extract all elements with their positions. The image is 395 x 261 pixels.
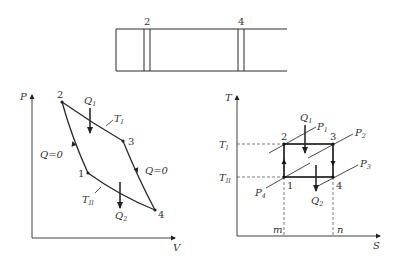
ts-label-1: 1 <box>287 180 293 191</box>
ts-q2-label: Q2 <box>311 195 323 208</box>
pv-point-1 <box>86 171 89 174</box>
pv-diagram: P V 2 3 1 4 Q1 TI Q=0 Q=0 TII Q2 <box>19 89 182 253</box>
dashed-guides <box>237 144 333 236</box>
pv-t-hot-label: TI <box>114 113 124 126</box>
ts-p2-label: P2 <box>354 127 366 140</box>
pv-point-3 <box>121 139 124 142</box>
p-axis-label: P <box>19 91 27 102</box>
pv-q1-label: Q1 <box>84 95 96 108</box>
pv-point-4 <box>153 208 156 211</box>
v-axis-label: V <box>173 242 182 253</box>
ts-arrow-up-icon <box>282 159 287 164</box>
piston-label-2: 2 <box>144 16 150 27</box>
pv-adiabat-right-label: Q=0 <box>145 165 169 176</box>
pv-adiabat-left-label: Q=0 <box>40 149 64 160</box>
pv-label-3: 3 <box>128 136 134 147</box>
ts-label-2: 2 <box>281 131 287 142</box>
ts-point-1 <box>282 175 285 178</box>
isobar-p1 <box>269 127 316 153</box>
adiabat-1-2 <box>62 102 88 173</box>
pv-point-2 <box>60 100 63 103</box>
ts-t-cold-label: TII <box>219 172 231 185</box>
ts-mark-m: m <box>273 224 282 235</box>
ts-point-3 <box>331 142 334 145</box>
ts-p1-label: P1 <box>316 121 328 134</box>
ts-arrow-down-icon <box>331 161 336 166</box>
pv-q2-label: Q2 <box>115 210 127 223</box>
isobar-lines <box>266 127 358 188</box>
ts-mark-n: n <box>337 224 343 235</box>
cylinder: 2 4 <box>116 16 287 71</box>
piston-label-4: 4 <box>238 16 244 27</box>
ts-label-4: 4 <box>336 180 342 191</box>
t-hot-leader <box>106 120 113 126</box>
ts-t-hot-label: TI <box>219 139 229 152</box>
ts-point-4 <box>331 175 334 178</box>
ts-q1-label: Q1 <box>300 112 312 125</box>
ts-p3-label: P3 <box>359 158 371 171</box>
ts-diagram: T S 2 3 1 4 TI TII <box>219 92 380 251</box>
pv-label-1: 1 <box>78 168 84 179</box>
s-axis-label: S <box>373 240 380 251</box>
piston-position-2 <box>144 29 150 71</box>
ts-label-3: 3 <box>330 131 336 142</box>
ts-point-2 <box>282 142 285 145</box>
pv-label-2: 2 <box>57 89 63 100</box>
pv-t-cold-label: TII <box>82 194 94 207</box>
pv-label-4: 4 <box>158 209 164 220</box>
piston-position-4 <box>238 29 244 71</box>
t-axis-label: T <box>225 92 233 103</box>
carnot-cycle-figure: 2 4 P V 2 3 1 4 Q1 TI Q=0 Q=0 <box>0 0 395 261</box>
t-cold-leader <box>95 187 101 193</box>
ts-p4-label: P4 <box>254 187 266 200</box>
